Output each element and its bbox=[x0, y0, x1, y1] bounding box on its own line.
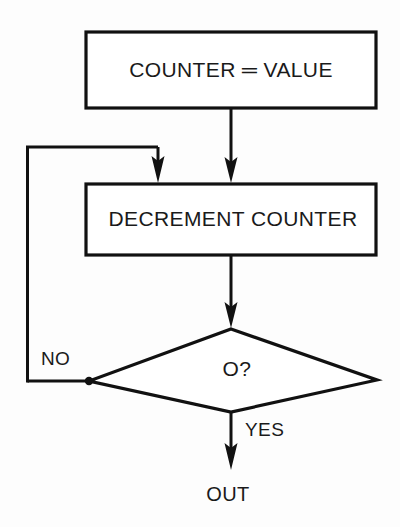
edge-test-yes-out: YES bbox=[225, 412, 285, 470]
test-diamond-label: O? bbox=[223, 357, 252, 380]
node-decrement[interactable]: DECREMENT COUNTER bbox=[86, 184, 376, 255]
node-out[interactable]: OUT bbox=[206, 483, 249, 505]
decrement-box-label: DECREMENT COUNTER bbox=[108, 207, 357, 230]
out-terminal-label: OUT bbox=[206, 483, 249, 505]
flowchart-diagram: COUNTER ═ VALUE NO DECREMENT COUNTER bbox=[0, 0, 400, 527]
init-box-label: COUNTER ═ VALUE bbox=[129, 58, 333, 81]
edge-label-yes: YES bbox=[245, 419, 284, 440]
edge-label-no: NO bbox=[41, 348, 70, 369]
edge-init-to-decrement bbox=[225, 108, 238, 183]
node-init[interactable]: COUNTER ═ VALUE bbox=[86, 32, 376, 108]
flowchart-canvas: COUNTER ═ VALUE NO DECREMENT COUNTER bbox=[0, 0, 400, 527]
node-test[interactable]: O? bbox=[89, 329, 377, 412]
edge-decrement-to-test bbox=[225, 255, 238, 328]
